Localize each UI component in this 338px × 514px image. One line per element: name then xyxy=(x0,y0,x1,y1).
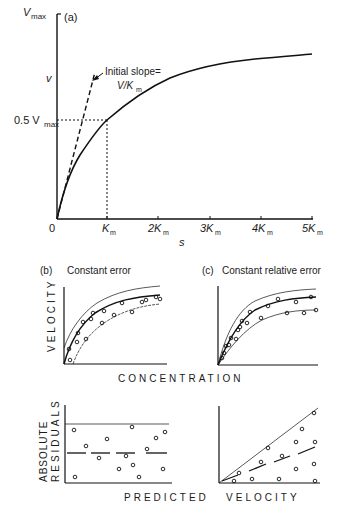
panel-c-title: Constant relative error xyxy=(222,265,322,276)
panel-b-title: Constant error xyxy=(67,265,132,276)
tick-label-0: 0 xyxy=(49,222,55,234)
half-vmax-label: 0.5 V xyxy=(14,114,40,126)
panel-b-residual-plot xyxy=(65,405,172,483)
data-points xyxy=(220,295,318,360)
panel-c-residual-plot xyxy=(219,406,320,483)
panel-a: V max (a) v 0.5 V max Initial slope= V/K… xyxy=(14,6,323,248)
initial-slope-annotation: Initial slope= xyxy=(105,66,161,77)
initial-slope-sub: m xyxy=(136,86,142,93)
panel-a-label: (a) xyxy=(64,11,77,23)
residuals-axis-label-2: RESIDUALS xyxy=(50,398,61,482)
x-axis-label: s xyxy=(179,236,185,248)
figure: V max (a) v 0.5 V max Initial slope= V/K… xyxy=(0,0,338,514)
tick-label-4km: 4K xyxy=(252,222,266,234)
y-axis-label: v xyxy=(46,72,53,84)
tick-label-km: K xyxy=(102,222,110,234)
panel-b-label: (b) xyxy=(40,265,52,276)
data-points xyxy=(67,295,162,362)
panel-b-velocity-plot xyxy=(64,286,167,364)
vmax-sub: max xyxy=(31,12,46,21)
svg-text:m: m xyxy=(110,229,116,236)
svg-text:m: m xyxy=(317,229,323,236)
panel-c-velocity-plot xyxy=(218,286,318,365)
panel-c-label: (c) xyxy=(202,265,214,276)
concentration-axis-label: CONCENTRATION xyxy=(118,373,243,384)
initial-slope-formula: V/K xyxy=(117,80,134,91)
tick-label-5km: 5K xyxy=(302,222,316,234)
svg-text:m: m xyxy=(215,229,221,236)
data-points xyxy=(72,425,167,479)
svg-text:m: m xyxy=(163,229,169,236)
half-vmax-sub: max xyxy=(44,120,59,129)
predicted-velocity-axis-label: PREDICTED VELOCITY xyxy=(124,492,300,503)
svg-text:m: m xyxy=(267,229,273,236)
velocity-axis-label: VELOCITY xyxy=(46,279,57,352)
residuals-axis-label-1: ABSOLUTE xyxy=(38,421,49,482)
tick-label-2km: 2K xyxy=(147,222,162,234)
tick-label-3km: 3K xyxy=(200,222,214,234)
data-points xyxy=(232,411,317,483)
